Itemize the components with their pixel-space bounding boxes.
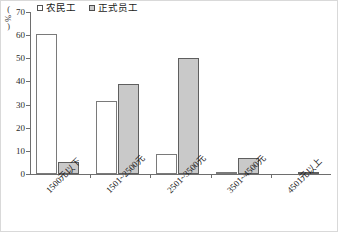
bar-农民工-3501~4500元 (216, 172, 237, 174)
y-axis-tick (26, 12, 30, 13)
y-axis-tick (26, 128, 30, 129)
y-axis-tick (26, 151, 30, 152)
x-axis-tick (90, 174, 91, 178)
legend-swatch-icon (37, 5, 43, 11)
x-axis-tick (211, 174, 212, 178)
y-axis-tick (26, 81, 30, 82)
plot-area: 0102030405060701500元以下1501~2500元2501~350… (30, 12, 331, 174)
x-axis-tick (271, 174, 272, 178)
x-axis-tick (150, 174, 151, 178)
bar-农民工-1501~2500元 (96, 101, 117, 174)
legend-swatch-icon (89, 5, 95, 11)
y-axis-tick (26, 35, 30, 36)
y-axis-tick-label: 30 (7, 101, 25, 110)
y-axis-line (30, 12, 31, 174)
bar-农民工-2501~3500元 (156, 154, 177, 174)
y-axis-tick-label: 10 (7, 147, 25, 156)
y-axis-tick (26, 58, 30, 59)
y-axis-tick-label: 70 (7, 8, 25, 17)
y-axis-tick-label: 50 (7, 54, 25, 63)
x-axis-category-label: 4501元以上 (285, 156, 324, 195)
y-axis-tick-label: 20 (7, 124, 25, 133)
y-axis-tick-label: 60 (7, 31, 25, 40)
chart-container: ( % ) 农民工正式员工 0102030405060701500元以下1501… (0, 0, 338, 232)
y-axis-tick-label: 0 (7, 170, 25, 179)
y-axis-tick (26, 174, 30, 175)
bar-农民工-1500元以下 (36, 34, 57, 174)
y-axis-tick-label: 40 (7, 77, 25, 86)
y-axis-tick (26, 105, 30, 106)
